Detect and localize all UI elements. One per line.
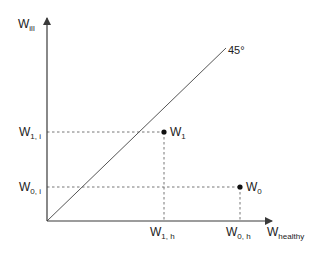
diagram-canvas: Will Whealthy 45° W1 W0 W1, i W0, i W1, … — [0, 0, 326, 254]
point-w1 — [161, 129, 166, 134]
point-w1-label: W1 — [170, 125, 186, 141]
diagonal-label: 45° — [228, 44, 245, 56]
diagonal-45-line — [47, 48, 226, 221]
x-axis-label: Whealthy — [267, 225, 304, 241]
point-w0 — [237, 184, 242, 189]
x-tick-w0-h: W0, h — [226, 225, 251, 241]
guide-lines — [47, 132, 240, 221]
y-tick-w1-i: W1, i — [19, 125, 41, 141]
x-tick-w1-h: W1, h — [150, 225, 175, 241]
y-axis-label: Will — [18, 17, 35, 33]
point-w0-label: W0 — [246, 180, 262, 196]
y-tick-w0-i: W0, i — [19, 180, 41, 196]
